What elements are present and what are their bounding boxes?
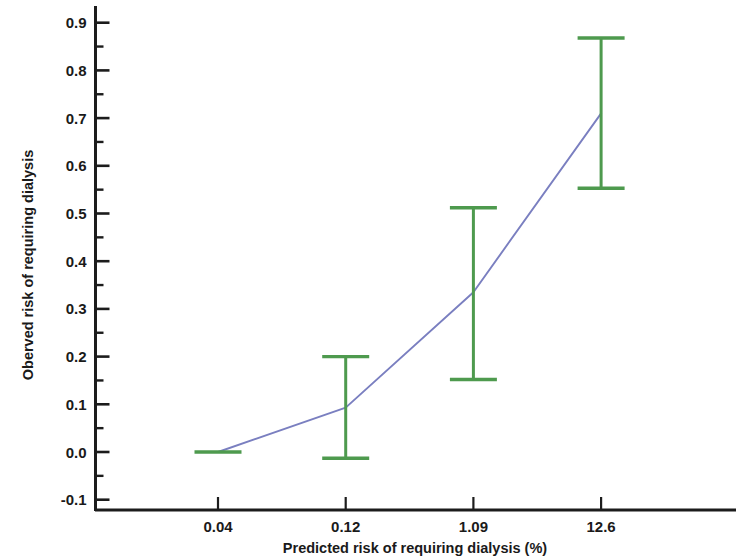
y-tick-label: 0.2 bbox=[66, 348, 87, 365]
y-tick-label: 0.8 bbox=[66, 62, 87, 79]
y-tick-label: 0.1 bbox=[66, 396, 87, 413]
y-tick-label: 0.9 bbox=[66, 14, 87, 31]
figure-background bbox=[0, 0, 738, 560]
x-tick-label: 0.12 bbox=[331, 518, 360, 535]
y-axis-title: Oberved risk of requiring dialysis bbox=[20, 150, 36, 380]
x-tick-label: 1.09 bbox=[459, 518, 488, 535]
chart-canvas: -0.10.00.10.20.30.40.50.60.70.80.9 0.040… bbox=[0, 0, 738, 560]
y-tick-label: -0.1 bbox=[61, 491, 87, 508]
y-tick-label: 0.5 bbox=[66, 205, 87, 222]
calibration-chart-figure: -0.10.00.10.20.30.40.50.60.70.80.9 0.040… bbox=[0, 0, 738, 560]
y-tick-label: 0.6 bbox=[66, 157, 87, 174]
x-tick-label: 0.04 bbox=[203, 518, 233, 535]
y-tick-label: 0.3 bbox=[66, 300, 87, 317]
x-tick-label: 12.6 bbox=[586, 518, 615, 535]
y-tick-label: 0.0 bbox=[66, 444, 87, 461]
y-tick-label: 0.7 bbox=[66, 110, 87, 127]
y-tick-label: 0.4 bbox=[66, 253, 88, 270]
x-axis-title: Predicted risk of requiring dialysis (%) bbox=[283, 540, 547, 556]
